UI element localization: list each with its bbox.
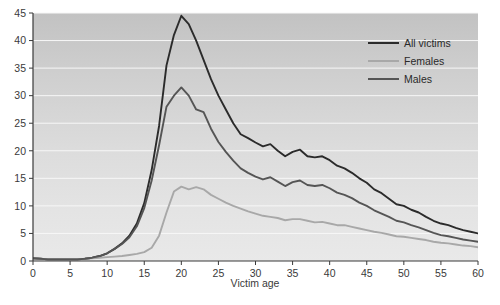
y-tick-label: 15: [14, 172, 26, 184]
x-tick-label: 20: [175, 267, 187, 279]
x-tick-label: 10: [101, 267, 113, 279]
y-tick-label: 25: [14, 117, 26, 129]
y-tick-label: 30: [14, 89, 26, 101]
legend-label-all-victims: All victims: [404, 37, 451, 49]
x-tick-label: 45: [361, 267, 373, 279]
x-tick-label: 50: [398, 267, 410, 279]
x-tick-label: 60: [472, 267, 484, 279]
line-chart: 051015202530354045505560 051015202530354…: [0, 0, 500, 305]
plot-background: [33, 13, 478, 261]
x-tick-label: 25: [213, 267, 225, 279]
y-tick-label: 20: [14, 145, 26, 157]
y-tick-label: 0: [20, 255, 26, 267]
x-tick-label: 35: [287, 267, 299, 279]
y-axis-ticks: 051015202530354045: [14, 7, 33, 267]
y-tick-label: 10: [14, 200, 26, 212]
y-tick-label: 40: [14, 34, 26, 46]
x-axis-title: Victim age: [231, 277, 280, 289]
y-tick-label: 5: [20, 227, 26, 239]
x-tick-label: 55: [435, 267, 447, 279]
x-tick-label: 5: [67, 267, 73, 279]
y-tick-label: 35: [14, 62, 26, 74]
x-tick-label: 0: [30, 267, 36, 279]
legend-label-males: Males: [404, 73, 432, 85]
x-tick-label: 15: [138, 267, 150, 279]
y-tick-label: 45: [14, 7, 26, 19]
x-tick-label: 40: [324, 267, 336, 279]
chart-container: 051015202530354045505560 051015202530354…: [0, 0, 500, 305]
legend-label-females: Females: [404, 55, 444, 67]
